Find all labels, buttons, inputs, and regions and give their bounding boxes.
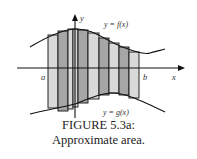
x-axis-arrow-icon bbox=[178, 65, 185, 71]
figure-caption-title: FIGURE 5.3a: bbox=[0, 118, 197, 133]
figure-caption-text: Approximate area. bbox=[0, 133, 197, 148]
rectangle-9 bbox=[119, 47, 129, 95]
a-label: a bbox=[41, 72, 45, 82]
approximating-rectangles bbox=[48, 29, 139, 111]
rectangle-6 bbox=[88, 33, 99, 99]
rectangle-10 bbox=[129, 52, 139, 98]
rectangle-2 bbox=[58, 31, 68, 111]
upper-curve-label: y = f(x) bbox=[103, 20, 128, 29]
rectangle-5 bbox=[78, 30, 88, 103]
rectangle-3 bbox=[68, 29, 73, 109]
y-axis-arrow-icon bbox=[72, 14, 78, 21]
rectangle-7 bbox=[99, 38, 109, 95]
b-label: b bbox=[143, 72, 147, 82]
area-diagram: y x a b y = f(x) y = g(x) bbox=[0, 0, 197, 118]
y-axis-label: y bbox=[79, 13, 84, 23]
x-axis-label: x bbox=[171, 72, 176, 82]
rectangle-1 bbox=[48, 35, 58, 108]
lower-curve-label: y = g(x) bbox=[102, 108, 129, 117]
